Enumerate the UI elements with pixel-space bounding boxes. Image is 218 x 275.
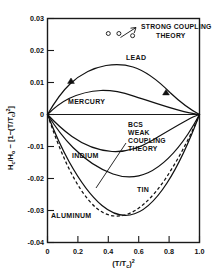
curve-label-indium: INDIUM — [72, 152, 99, 159]
curve-label-lead: LEAD — [126, 54, 146, 61]
plot-frame — [48, 19, 200, 243]
figure-container: 0.03 0.02 0.01 0 -0.01 -0.02 -0.03 -0.04… — [0, 0, 218, 275]
x-tick-label-1: 0.2 — [73, 247, 83, 256]
y-tickmarks — [48, 19, 55, 243]
curve-label-tin: TIN — [137, 186, 149, 193]
x-tick-label-0: 0 — [46, 247, 50, 256]
y-tick-label-2: 0.01 — [30, 78, 44, 87]
svg-text:(T/Tc)2: (T/Tc)2 — [112, 258, 134, 269]
annotation-bcs-line1: BCS — [128, 121, 143, 128]
x-tick-label-2: 0.4 — [103, 247, 113, 256]
annotation-bcs-line4: THEORY — [128, 145, 158, 152]
x-axis-title: (T/Tc)2 — [112, 258, 134, 269]
y-tick-label-6: -0.03 — [28, 206, 44, 215]
data-point-open-circle — [117, 32, 121, 36]
strong-coupling-leader — [121, 28, 137, 38]
annotation-bcs-line2: WEAK — [128, 129, 150, 136]
strong-coupling-data-points — [106, 32, 134, 38]
y-tick-label-3: 0 — [40, 110, 44, 119]
data-point-open-circle — [131, 34, 135, 38]
x-tick-label-4: 0.8 — [164, 247, 174, 256]
y-axis-title: Hc/Ho − [1−(T/Tc)2] — [5, 105, 16, 170]
x-tick-label-5: 1.0 — [195, 247, 205, 256]
annotation-strong-coupling-line2: THEORY — [156, 32, 186, 39]
y-tick-label-0: 0.03 — [30, 14, 44, 23]
annotation-strong-coupling-line1: STRONG COUPLING — [141, 23, 212, 30]
y-tick-label-4: -0.01 — [28, 142, 44, 151]
x-axis-title-exp: 2 — [132, 258, 135, 264]
chart-svg: 0.03 0.02 0.01 0 -0.01 -0.02 -0.03 -0.04… — [0, 0, 218, 275]
y-tick-label-7: -0.04 — [28, 238, 44, 247]
curve-label-aluminum: ALUMINUM — [51, 212, 92, 219]
curve-lead — [48, 65, 200, 115]
y-tick-label-1: 0.02 — [30, 46, 44, 55]
curve-label-mercury: MERCURY — [68, 98, 105, 105]
y-tick-label-5: -0.02 — [28, 174, 44, 183]
x-axis-title-main: (T/T — [112, 259, 126, 268]
x-tickmarks — [48, 236, 200, 243]
data-point-open-circle — [106, 32, 110, 36]
annotation-bcs-line3: COUPLING — [128, 137, 166, 144]
x-tick-label-3: 0.6 — [134, 247, 144, 256]
curve-aluminum — [48, 115, 200, 216]
svg-text:Hc/Ho − [1−(T/Tc)2]: Hc/Ho − [1−(T/Tc)2] — [5, 105, 16, 170]
